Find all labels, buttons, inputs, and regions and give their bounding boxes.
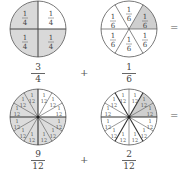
svg-text:12: 12 — [41, 98, 47, 104]
svg-text:4: 4 — [23, 19, 28, 27]
plus-sign: + — [80, 155, 88, 165]
svg-text:12: 12 — [105, 111, 111, 117]
fraction-three-quarters: 3 4 — [26, 63, 50, 84]
svg-text:12: 12 — [147, 111, 153, 117]
svg-text:12: 12 — [141, 102, 147, 108]
svg-text:12: 12 — [20, 133, 26, 139]
svg-text:1: 1 — [49, 34, 53, 42]
svg-text:12: 12 — [14, 111, 20, 117]
fraction-two-twelfths: 2 12 — [117, 150, 141, 171]
svg-text:12: 12 — [111, 133, 117, 139]
fraction-circles-figure: 14 14 14 14 16 16 16 16 16 16 — [0, 0, 184, 173]
svg-text:12: 12 — [147, 124, 153, 130]
svg-text:6: 6 — [127, 15, 132, 23]
svg-text:12: 12 — [132, 98, 138, 104]
plus-sign: + — [80, 68, 88, 78]
svg-text:1: 1 — [127, 6, 131, 14]
svg-text:4: 4 — [49, 19, 54, 27]
svg-text:12: 12 — [41, 137, 47, 143]
svg-text:12: 12 — [56, 124, 62, 130]
svg-text:12: 12 — [14, 124, 20, 130]
svg-text:12: 12 — [111, 102, 117, 108]
equals-sign: = — [170, 111, 178, 121]
svg-text:12: 12 — [29, 98, 35, 104]
svg-text:12: 12 — [105, 124, 111, 130]
svg-text:4: 4 — [49, 43, 54, 51]
svg-text:12: 12 — [56, 111, 62, 117]
numerator: 1 — [117, 63, 141, 72]
circle-sixths: 16 16 16 16 16 16 — [101, 1, 157, 57]
svg-text:1: 1 — [143, 13, 147, 21]
svg-text:6: 6 — [111, 41, 116, 49]
svg-text:1: 1 — [49, 10, 53, 18]
svg-text:12: 12 — [120, 98, 126, 104]
svg-text:6: 6 — [143, 41, 148, 49]
equals-sign: = — [170, 23, 178, 33]
svg-text:1: 1 — [111, 13, 115, 21]
circle-quarters: 14 14 14 14 — [10, 1, 66, 57]
svg-text:12: 12 — [50, 102, 56, 108]
circle-twelfths-two-shaded: 112 112 112 112 112 112 112 112 112 112 … — [101, 89, 157, 145]
numerator: 9 — [26, 150, 50, 159]
svg-text:1: 1 — [127, 36, 131, 44]
svg-text:12: 12 — [29, 137, 35, 143]
denominator: 4 — [26, 75, 50, 84]
denominator: 12 — [117, 162, 141, 171]
svg-text:1: 1 — [111, 32, 115, 40]
svg-text:4: 4 — [23, 43, 28, 51]
fraction-nine-twelfths: 9 12 — [26, 150, 50, 171]
numerator: 3 — [26, 63, 50, 72]
denominator: 12 — [26, 162, 50, 171]
svg-text:6: 6 — [127, 45, 132, 53]
svg-text:12: 12 — [132, 137, 138, 143]
numerator: 2 — [117, 150, 141, 159]
svg-text:12: 12 — [141, 133, 147, 139]
denominator: 6 — [117, 75, 141, 84]
svg-text:6: 6 — [111, 22, 116, 30]
svg-text:12: 12 — [50, 133, 56, 139]
svg-text:1: 1 — [23, 10, 27, 18]
circle-twelfths-nine-shaded: 112 112 112 112 112 112 112 112 112 112 … — [10, 89, 66, 145]
svg-text:1: 1 — [23, 34, 27, 42]
svg-text:1: 1 — [143, 32, 147, 40]
svg-text:12: 12 — [120, 137, 126, 143]
fraction-one-sixth: 1 6 — [117, 63, 141, 84]
svg-text:12: 12 — [20, 102, 26, 108]
svg-text:6: 6 — [143, 22, 148, 30]
